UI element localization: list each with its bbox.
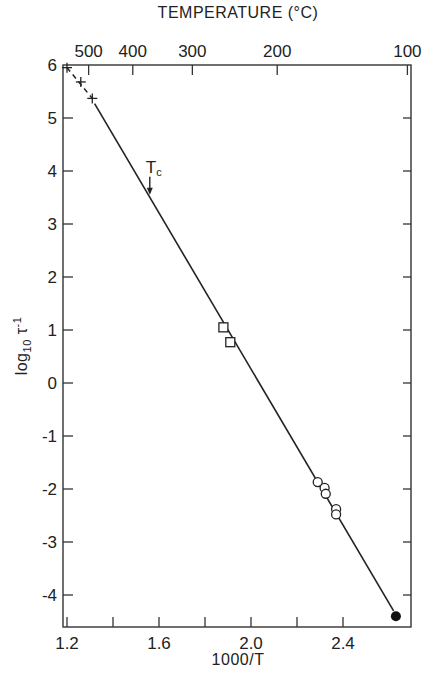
square-marker	[226, 338, 235, 347]
y-tick-label: 2	[48, 268, 57, 287]
filled-circle-marker	[391, 611, 401, 621]
circle-marker	[321, 489, 330, 498]
top-tick-label: 400	[119, 42, 147, 61]
tc-annotation: Tc	[146, 158, 162, 195]
y-tick-label: -1	[42, 427, 57, 446]
y-tick-label: 5	[48, 109, 57, 128]
y-tick-label: -4	[42, 586, 57, 605]
x-tick-label: 2.4	[331, 634, 355, 653]
fit-line-solid	[95, 104, 394, 611]
y-axis-title: log10 τ-1	[11, 317, 33, 376]
arrhenius-chart: TEMPERATURE (°C) 500400300200100 1.21.62…	[0, 0, 431, 696]
y-tick-label: 1	[48, 321, 57, 340]
tc-label: Tc	[146, 158, 162, 178]
y-tick-label: 4	[48, 162, 57, 181]
y-tick-label: 3	[48, 215, 57, 234]
x-tick-label: 1.2	[55, 634, 79, 653]
top-axis-ticks: 500400300200100	[74, 42, 421, 75]
cross-marker	[76, 77, 86, 87]
y-tick-label: -3	[42, 533, 57, 552]
top-tick-label: 500	[74, 42, 102, 61]
circle-marker	[332, 510, 341, 519]
y-tick-label: 6	[48, 56, 57, 75]
cross-marker	[87, 93, 97, 103]
top-tick-label: 200	[263, 42, 291, 61]
svg-text:log10 τ-1: log10 τ-1	[11, 317, 33, 376]
top-tick-label: 300	[178, 42, 206, 61]
x-axis-ticks: 1.21.62.02.4	[55, 617, 355, 653]
square-marker	[219, 323, 228, 332]
x-tick-label: 1.6	[147, 634, 171, 653]
y-tick-label: -2	[42, 480, 57, 499]
top-tick-label: 100	[393, 42, 421, 61]
y-tick-label: 0	[48, 374, 57, 393]
x-axis-title: 1000/T	[212, 651, 265, 668]
top-axis-title: TEMPERATURE (°C)	[158, 4, 319, 21]
